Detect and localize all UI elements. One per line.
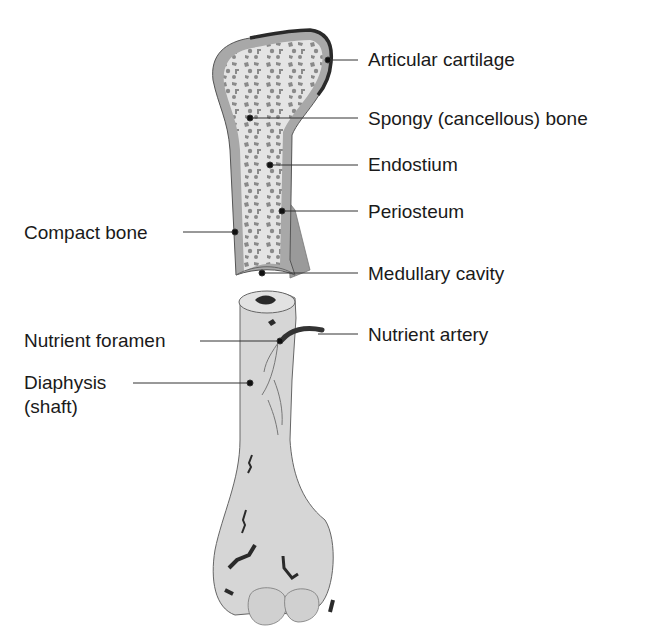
label-medullary-cavity: Medullary cavity <box>368 263 504 285</box>
label-endostium: Endostium <box>368 154 458 176</box>
label-periosteum: Periosteum <box>368 201 464 223</box>
label-diaphysis: Diaphysis <box>24 372 106 394</box>
label-articular-cartilage: Articular cartilage <box>368 49 515 71</box>
label-spongy-bone: Spongy (cancellous) bone <box>368 108 588 130</box>
label-nutrient-foramen: Nutrient foramen <box>24 330 166 352</box>
label-nutrient-artery: Nutrient artery <box>368 324 488 346</box>
label-compact-bone: Compact bone <box>24 222 148 244</box>
proximal-epiphysis-section <box>213 30 332 278</box>
label-diaphysis-shaft: (shaft) <box>24 396 78 418</box>
bone-diagram <box>0 0 648 633</box>
